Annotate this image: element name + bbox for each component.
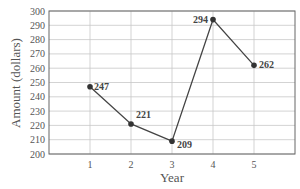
- y-tick-label: 290: [30, 20, 45, 31]
- y-tick-label: 230: [30, 106, 45, 117]
- x-tick-label: 1: [88, 159, 93, 170]
- data-label: 209: [177, 139, 192, 150]
- data-point: [251, 63, 257, 69]
- y-tick-label: 240: [30, 91, 45, 102]
- data-label: 262: [259, 59, 274, 70]
- x-tick-label: 4: [211, 159, 216, 170]
- y-tick-label: 200: [30, 149, 45, 160]
- x-tick-label: 2: [129, 159, 134, 170]
- data-labels: 247221209294262: [94, 14, 274, 151]
- y-tick-label: 270: [30, 48, 45, 59]
- data-label: 221: [136, 109, 151, 120]
- data-label: 247: [94, 81, 109, 92]
- line-chart: 200210220230240250260270280290300 12345 …: [0, 0, 300, 189]
- data-point: [210, 17, 216, 23]
- x-tick-label: 5: [252, 159, 257, 170]
- y-tick-label: 260: [30, 63, 45, 74]
- y-tick-label: 250: [30, 77, 45, 88]
- data-point: [87, 84, 93, 90]
- x-tick-label: 3: [170, 159, 175, 170]
- x-axis-ticks: 12345: [88, 159, 257, 170]
- y-tick-label: 280: [30, 34, 45, 45]
- y-axis-ticks: 200210220230240250260270280290300: [30, 6, 45, 160]
- data-point: [169, 138, 175, 144]
- y-tick-label: 300: [30, 6, 45, 17]
- y-tick-label: 220: [30, 120, 45, 131]
- data-point: [128, 121, 134, 127]
- data-label: 294: [193, 14, 208, 25]
- x-axis-label: Year: [160, 170, 185, 185]
- y-tick-label: 210: [30, 134, 45, 145]
- y-axis-label: Amount (dollars): [8, 38, 23, 128]
- grid-lines: [49, 11, 295, 154]
